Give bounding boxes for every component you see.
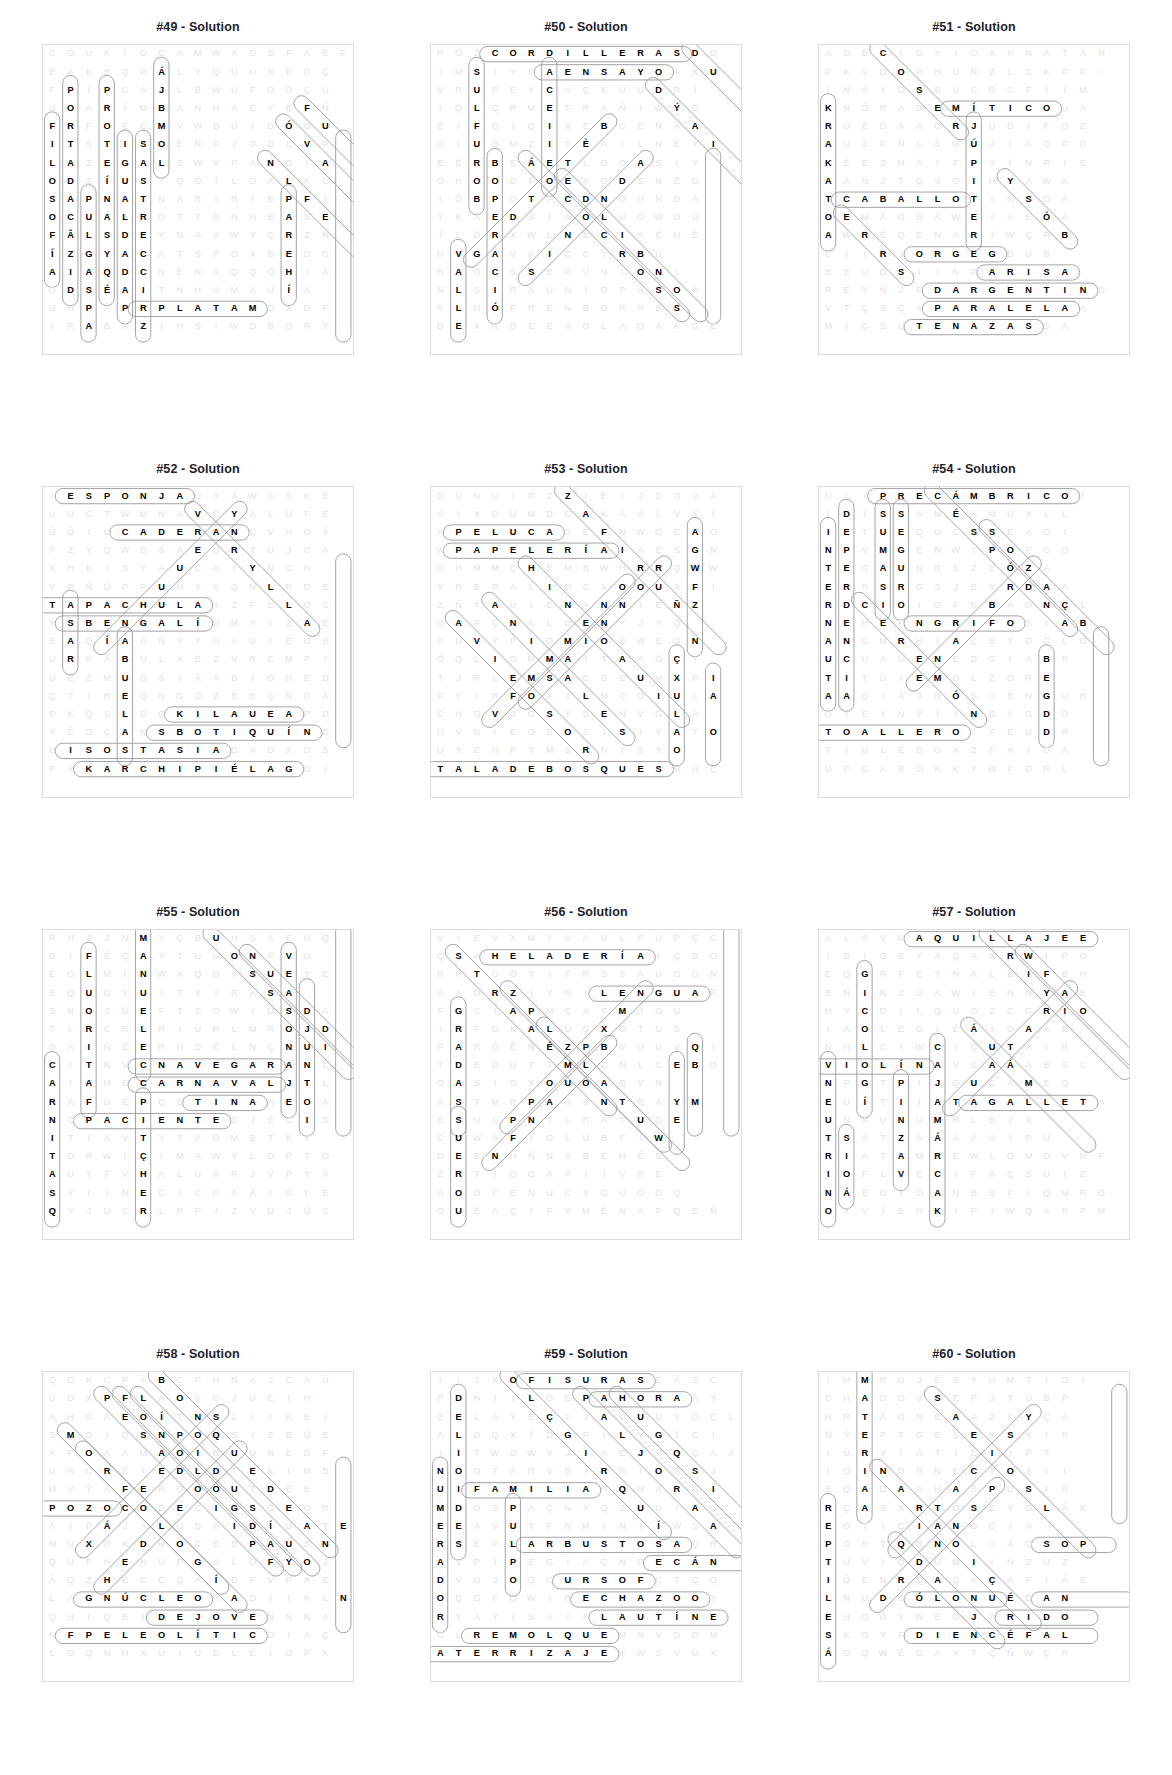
- grid-letter-filler: U: [1019, 724, 1037, 742]
- grid-letter-filler: [837, 1663, 855, 1681]
- grid-letter-filler: A: [486, 1202, 504, 1220]
- grid-letter-filler: Q: [134, 687, 152, 705]
- grid-letter-filler: Z: [983, 63, 1001, 81]
- grid-letter-filler: [116, 1221, 134, 1239]
- grid-letter-filler: [1056, 1445, 1074, 1463]
- grid-letter-filler: O: [965, 45, 983, 63]
- grid-letter-filler: L: [559, 1111, 577, 1129]
- grid-letter-filler: I: [431, 1372, 449, 1390]
- grid-letter-solution: R: [577, 1572, 595, 1590]
- grid-letter-filler: [1074, 524, 1092, 542]
- grid-letter-filler: [704, 81, 722, 99]
- grid-letter-solution: C: [134, 1057, 152, 1075]
- grid-letter-filler: C: [613, 118, 631, 136]
- grid-letter-filler: A: [171, 191, 189, 209]
- grid-letter-filler: Y: [559, 1202, 577, 1220]
- grid-letter-filler: L: [613, 930, 631, 948]
- grid-letter-filler: Ý: [650, 742, 668, 760]
- grid-letter-filler: Á: [43, 1517, 61, 1535]
- grid-letter-solution: O: [189, 1426, 207, 1444]
- grid-letter-solution: D: [874, 1590, 892, 1608]
- grid-letter-filler: T: [431, 669, 449, 687]
- grid-letter-solution: Í: [650, 1517, 668, 1535]
- grid-letter-solution: [1074, 1626, 1092, 1644]
- grid-letter-filler: U: [910, 1111, 928, 1129]
- grid-letter-solution: E: [595, 1645, 613, 1663]
- grid-letter-solution: I: [577, 633, 595, 651]
- grid-letter-filler: P: [486, 81, 504, 99]
- grid-letter-filler: [704, 1221, 722, 1239]
- grid-letter-filler: [668, 778, 686, 796]
- grid-letter-filler: Í: [947, 1445, 965, 1463]
- grid-letter-solution: [704, 706, 722, 724]
- grid-letter-filler: Q: [910, 1572, 928, 1590]
- grid-letter-filler: A: [856, 930, 874, 948]
- grid-letter-filler: Ç: [1038, 1408, 1056, 1426]
- grid-letter-solution: [704, 300, 722, 318]
- grid-letter-filler: B: [280, 1426, 298, 1444]
- grid-letter-filler: A: [189, 1572, 207, 1590]
- grid-letter-solution: N: [613, 596, 631, 614]
- grid-letter-filler: É: [650, 542, 668, 560]
- grid-letter-solution: [722, 1554, 740, 1572]
- grid-letter-filler: U: [280, 1517, 298, 1535]
- grid-letter-filler: T: [819, 742, 837, 760]
- grid-letter-filler: I: [559, 1408, 577, 1426]
- grid-letter-solution: C: [134, 263, 152, 281]
- grid-letter-filler: P: [892, 615, 910, 633]
- grid-letter-solution: S: [1038, 263, 1056, 281]
- grid-letter-filler: C: [262, 487, 280, 505]
- grid-letter-filler: E: [298, 1408, 316, 1426]
- grid-letter-filler: B: [225, 669, 243, 687]
- grid-letter-filler: D: [43, 1039, 61, 1057]
- grid-letter-filler: N: [431, 281, 449, 299]
- grid-letter-filler: Ç: [704, 760, 722, 778]
- grid-letter-filler: [1110, 1202, 1128, 1220]
- grid-letter-filler: A: [171, 45, 189, 63]
- grid-letter-filler: A: [262, 930, 280, 948]
- grid-letter-filler: O: [152, 209, 170, 227]
- grid-letter-filler: I: [704, 1426, 722, 1444]
- grid-letter-filler: [171, 336, 189, 354]
- grid-letter-filler: T: [468, 1093, 486, 1111]
- grid-letter-filler: I: [856, 948, 874, 966]
- grid-letter-solution: R: [262, 1057, 280, 1075]
- puzzle-55: #55 - SolutionRHJJNMYÇBUHSAFUQBIFÉÇAYTUU…: [4, 891, 392, 1333]
- grid-letter-filler: R: [1056, 1426, 1074, 1444]
- grid-letter-filler: U: [152, 1645, 170, 1663]
- grid-letter-filler: Ñ: [449, 596, 467, 614]
- grid-letter-filler: C: [152, 1184, 170, 1202]
- grid-letter-filler: É: [928, 1372, 946, 1390]
- grid-letter-filler: I: [152, 984, 170, 1002]
- grid-letter-solution: A: [965, 1093, 983, 1111]
- grid-letter-solution: T: [449, 1645, 467, 1663]
- grid-letter-filler: [1092, 1166, 1110, 1184]
- grid-letter-filler: T: [171, 948, 189, 966]
- grid-letter-solution: G: [686, 542, 704, 560]
- grid-letter-solution: [1074, 1590, 1092, 1608]
- grid-letter-filler: W: [522, 227, 540, 245]
- grid-letter-solution: L: [874, 724, 892, 742]
- grid-letter-filler: I: [298, 154, 316, 172]
- grid-letter-filler: Ó: [1038, 191, 1056, 209]
- grid-letter-solution: [686, 300, 704, 318]
- grid-letter-filler: W: [243, 487, 261, 505]
- grid-letter-filler: Z: [61, 542, 79, 560]
- grid-letter-solution: N: [504, 615, 522, 633]
- grid-letter-solution: T: [522, 191, 540, 209]
- grid-letter-solution: S: [650, 760, 668, 778]
- grid-letter-filler: L: [965, 1535, 983, 1553]
- grid-letter-filler: R: [1074, 687, 1092, 705]
- grid-letter-filler: M: [504, 136, 522, 154]
- grid-letter-filler: R: [577, 1111, 595, 1129]
- grid-letter-filler: B: [819, 984, 837, 1002]
- grid-letter-solution: A: [928, 1184, 946, 1202]
- grid-letter-filler: R: [631, 300, 649, 318]
- grid-letter-filler: R: [504, 1093, 522, 1111]
- grid-letter-filler: [1110, 63, 1128, 81]
- grid-letter-solution: A: [668, 1390, 686, 1408]
- grid-letter-filler: O: [1038, 742, 1056, 760]
- grid-letter-solution: O: [98, 118, 116, 136]
- grid-letter-filler: A: [98, 1481, 116, 1499]
- grid-letter-filler: O: [522, 1166, 540, 1184]
